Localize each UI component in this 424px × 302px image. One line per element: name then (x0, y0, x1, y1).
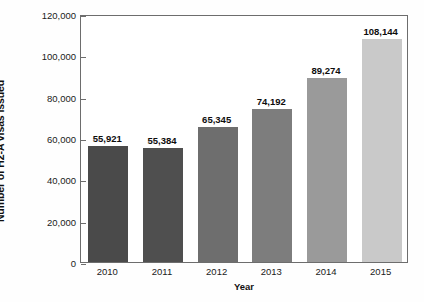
bar-chart-figure: Number of H2-A visas issued Year 020,000… (0, 0, 424, 302)
x-axis-tick-label: 2011 (135, 266, 190, 277)
y-axis-tick-mark (81, 99, 86, 100)
y-axis-tick-label: 40,000 (6, 175, 76, 186)
bar-value-label: 108,144 (349, 26, 413, 37)
bar-value-label: 65,345 (185, 114, 249, 125)
x-axis-tick-label: 2013 (244, 266, 299, 277)
y-axis-tick-label: 120,000 (6, 10, 76, 21)
bar (362, 39, 402, 262)
bar-value-label: 55,384 (130, 135, 194, 146)
y-axis-tick-label: 60,000 (6, 134, 76, 145)
y-axis-tick-label: 80,000 (6, 92, 76, 103)
y-axis-tick-label: 0 (6, 258, 76, 269)
x-axis-tick-label: 2012 (189, 266, 244, 277)
x-axis-tick-label: 2014 (299, 266, 354, 277)
bar-value-label: 89,274 (294, 65, 358, 76)
x-axis-tick-label: 2010 (80, 266, 135, 277)
bar (88, 146, 128, 262)
x-axis-title: Year (80, 281, 408, 292)
y-axis-tick-mark (81, 264, 86, 265)
bar (143, 148, 183, 262)
x-axis-tick-label: 2015 (353, 266, 408, 277)
y-axis-tick-mark (81, 223, 86, 224)
bar (307, 78, 347, 262)
y-axis-tick-label: 20,000 (6, 216, 76, 227)
y-axis-tick-mark (81, 57, 86, 58)
bar (252, 109, 292, 262)
y-axis-tick-mark (81, 181, 86, 182)
bar (198, 127, 238, 262)
y-axis-tick-mark (81, 16, 86, 17)
bar-value-label: 74,192 (239, 96, 303, 107)
y-axis-tick-label: 100,000 (6, 51, 76, 62)
